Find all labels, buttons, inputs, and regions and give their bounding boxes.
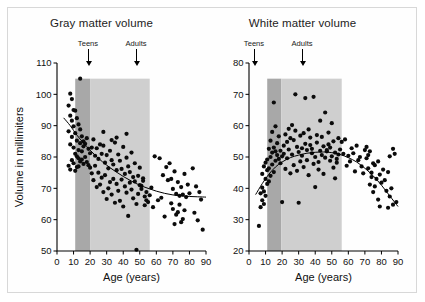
band-label-adults-white: Adults (281, 39, 323, 48)
x-tick-label: 70 (360, 256, 371, 267)
arrow-adults-white (302, 49, 303, 62)
y-tick-label: 70 (41, 183, 52, 194)
y-axis-title: Volume in millimiters (13, 106, 25, 207)
x-tick-label: 0 (246, 256, 251, 267)
arrow-teens-gray (88, 49, 89, 62)
x-tick-label: 10 (68, 256, 79, 267)
shaded-band-adults (90, 79, 150, 251)
x-axis-title: Age (years) (295, 271, 352, 283)
x-tick-label: 50 (134, 256, 145, 267)
y-tick-label: 110 (36, 57, 51, 68)
x-tick-label: 40 (118, 256, 129, 267)
panel-white-matter: White matter volume Teens Adults 2030405… (192, 0, 425, 302)
arrow-teens-white (254, 49, 255, 62)
y-tick-label: 60 (41, 214, 52, 225)
arrow-adults-gray (136, 49, 137, 62)
band-label-adults-gray: Adults (115, 39, 157, 48)
y-tick-label: 30 (233, 214, 244, 225)
x-axis-title: Age (years) (103, 271, 160, 283)
y-tick-label: 80 (233, 57, 244, 68)
panel-title-white-matter: White matter volume (186, 17, 419, 29)
y-tick-label: 50 (233, 151, 244, 162)
y-tick-label: 90 (41, 120, 52, 131)
y-tick-label: 40 (233, 183, 244, 194)
panel-title-gray-matter: Gray matter volume (0, 17, 209, 29)
x-tick-label: 40 (310, 256, 321, 267)
x-tick-label: 30 (101, 256, 112, 267)
x-tick-label: 20 (277, 256, 288, 267)
band-label-teens-white: Teens (234, 39, 274, 48)
x-tick-label: 20 (85, 256, 96, 267)
x-tick-label: 70 (168, 256, 179, 267)
panel-gray-matter: Gray matter volume Teens Adults 50607080… (0, 0, 215, 302)
y-tick-label: 20 (233, 245, 244, 256)
band-label-teens-gray: Teens (68, 39, 108, 48)
x-tick-label: 10 (260, 256, 271, 267)
y-tick-label: 80 (41, 151, 52, 162)
y-tick-label: 50 (41, 245, 52, 256)
y-tick-label: 70 (233, 89, 244, 100)
x-tick-label: 60 (151, 256, 162, 267)
figure-root: Gray matter volume Teens Adults 50607080… (0, 0, 425, 302)
x-tick-label: 30 (293, 256, 304, 267)
x-tick-label: 80 (376, 256, 387, 267)
y-tick-label: 100 (36, 89, 52, 100)
x-tick-label: 0 (54, 256, 59, 267)
x-tick-label: 90 (393, 256, 404, 267)
y-tick-label: 60 (233, 120, 244, 131)
x-tick-label: 60 (343, 256, 354, 267)
x-tick-label: 50 (326, 256, 337, 267)
shaded-band-adults (281, 79, 341, 251)
